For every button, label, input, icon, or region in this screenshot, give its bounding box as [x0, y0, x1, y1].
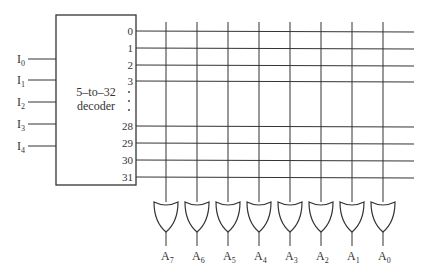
or-gate: A2 — [309, 202, 333, 265]
gate-output-label: A5 — [223, 249, 236, 265]
decoder-output-line — [136, 160, 414, 161]
or-gate: A4 — [247, 202, 271, 265]
decoder-inputs: I0I1I2I3I4 — [17, 52, 56, 155]
decoder-rom-diagram: 5–to–32 decoder I0I1I2I3I4 012328293031 … — [0, 0, 429, 275]
input-label: I4 — [17, 139, 25, 155]
gate-output-label: A2 — [316, 249, 329, 265]
output-label: 0 — [128, 25, 134, 37]
gate-output-label: A1 — [347, 249, 360, 265]
decoder-output-line — [136, 65, 414, 66]
input-label: I1 — [17, 73, 25, 89]
decoder-label-line2: decoder — [77, 99, 115, 113]
or-gate: A6 — [185, 202, 209, 265]
or-gate: A3 — [278, 202, 302, 265]
or-gate: A1 — [340, 202, 364, 265]
input-label: I3 — [17, 117, 25, 133]
decoder-output-line — [136, 48, 414, 49]
output-label: 2 — [128, 59, 134, 71]
input-label: I0 — [17, 52, 25, 68]
decoder-label-line1: 5–to–32 — [76, 85, 115, 99]
decoder-output-line — [136, 126, 414, 127]
output-label: 28 — [122, 120, 134, 132]
or-gates: A7A6A5A4A3A2A1A0 — [154, 202, 395, 265]
or-gate: A0 — [371, 202, 395, 265]
output-label: 1 — [128, 42, 134, 54]
decoder-output-line — [136, 81, 414, 82]
gate-output-label: A6 — [192, 249, 205, 265]
decoder-output-line — [136, 143, 414, 144]
or-array-grid — [136, 22, 414, 202]
or-gate: A7 — [154, 202, 178, 265]
input-label: I2 — [17, 95, 25, 111]
gate-output-label: A4 — [254, 249, 267, 265]
gate-output-label: A7 — [161, 249, 174, 265]
or-gate: A5 — [216, 202, 240, 265]
output-label: 31 — [122, 171, 133, 183]
gate-output-label: A3 — [285, 249, 298, 265]
decoder-output-line — [136, 31, 414, 32]
output-label: 30 — [122, 154, 134, 166]
gate-output-label: A0 — [378, 249, 391, 265]
output-label: 29 — [122, 137, 134, 149]
decoder-output-line — [136, 177, 414, 178]
output-label: 3 — [128, 75, 134, 87]
